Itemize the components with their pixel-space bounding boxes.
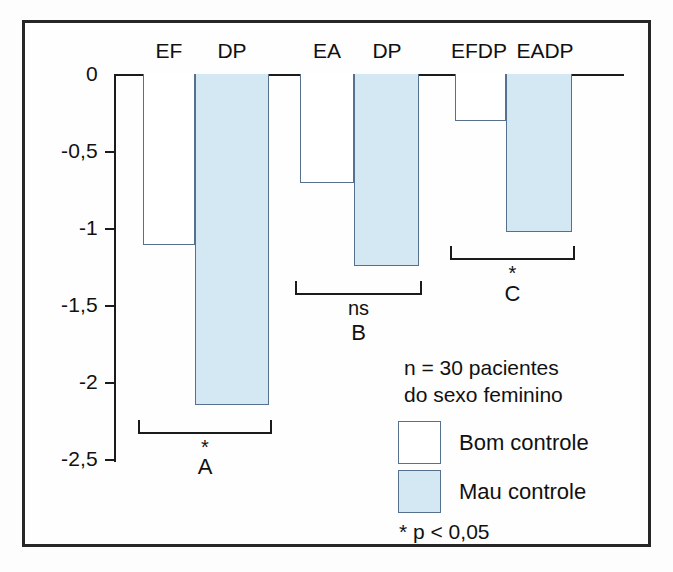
bracket-c-name: C <box>450 283 575 305</box>
legend-item-bom-controle: Bom controle <box>398 421 589 464</box>
bracket-b <box>295 281 422 295</box>
bar-label-a-bad: DP <box>202 39 262 63</box>
bar-b-bad-dp <box>354 74 419 266</box>
bracket-a-name: A <box>138 456 272 478</box>
legend-label-bom-controle: Bom controle <box>459 430 589 456</box>
y-tick-label-0: 0 <box>20 62 98 86</box>
y-tick-label-2: -2 <box>20 370 98 394</box>
legend-swatch-mau-controle <box>398 470 441 513</box>
legend-item-mau-controle: Mau controle <box>398 470 586 513</box>
bracket-b-significance: ns <box>295 298 422 318</box>
bar-c-good-efdp <box>455 74 506 121</box>
bar-label-b-bad: DP <box>357 39 417 63</box>
bracket-a <box>138 420 272 434</box>
bar-label-c-good: EFDP <box>443 39 515 63</box>
y-tick-label-2.5: -2,5 <box>20 447 98 471</box>
bracket-c <box>450 246 575 260</box>
bar-label-b-good: EA <box>297 39 357 63</box>
bar-c-bad-eadp <box>506 74 572 232</box>
y-tick-label-1.5: -1,5 <box>20 293 98 317</box>
legend-label-mau-controle: Mau controle <box>459 479 586 505</box>
bar-a-good-ef <box>143 74 195 245</box>
y-tick-mark-1 <box>105 228 115 230</box>
y-tick-mark-0.5 <box>105 151 115 153</box>
y-tick-label-0.5: -0,5 <box>20 139 98 163</box>
sample-note-line1: n = 30 pacientes <box>404 355 563 382</box>
figure-container: 0 -0,5 -1 -1,5 -2 -2,5 EF DP * A EA DP n… <box>0 0 673 572</box>
pvalue-note: * p < 0,05 <box>399 520 490 544</box>
legend-swatch-bom-controle <box>398 421 441 464</box>
y-tick-mark-2.5 <box>105 459 115 461</box>
sample-note-line2: do sexo feminino <box>404 382 563 409</box>
y-tick-mark-1.5 <box>105 305 115 307</box>
y-tick-mark-2 <box>105 382 115 384</box>
bracket-c-significance: * <box>450 263 575 283</box>
bar-b-good-ea <box>300 74 354 183</box>
bar-label-a-good: EF <box>139 39 199 63</box>
bar-a-bad-dp <box>195 74 269 405</box>
plot-area: 0 -0,5 -1 -1,5 -2 -2,5 EF DP * A EA DP n… <box>0 0 673 572</box>
sample-note: n = 30 pacientes do sexo feminino <box>404 355 563 409</box>
bar-label-c-bad: EADP <box>509 39 581 63</box>
y-axis-line <box>114 74 116 462</box>
y-tick-label-1: -1 <box>20 216 98 240</box>
bracket-b-name: B <box>295 322 422 344</box>
